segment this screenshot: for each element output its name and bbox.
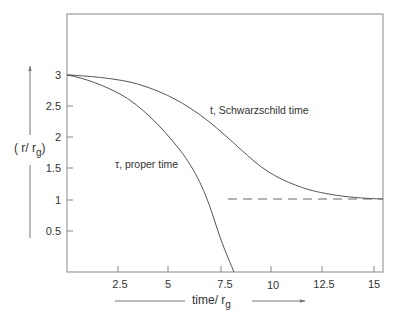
x-tick-label: 15 xyxy=(368,278,380,290)
x-tick-label: 2.5 xyxy=(112,278,127,290)
y-tick-label: 2.5 xyxy=(46,100,61,112)
x-tick-labels: 2.5 5 7.5 10 12.5 15 xyxy=(112,278,380,291)
x-tick-label: 7.5 xyxy=(217,278,232,290)
y-tick-label: 1 xyxy=(55,194,61,206)
y-tick-label: 2 xyxy=(55,131,61,143)
plot-frame xyxy=(67,14,383,272)
schwarzschild-label: t, Schwarzschild time xyxy=(210,104,309,116)
y-tick-labels: 0.5 1 1.5 2 2.5 3 xyxy=(46,69,61,237)
schwarzschild-time-curve xyxy=(67,75,383,199)
proper-time-curve xyxy=(67,75,234,272)
proper-time-label: τ, proper time xyxy=(115,158,178,170)
y-tick-label: 3 xyxy=(55,69,61,81)
x-tick-label: 5 xyxy=(165,278,171,290)
y-axis-label: ( r/ rg) xyxy=(14,141,46,158)
y-ticks xyxy=(67,75,73,231)
x-tick-label: 10 xyxy=(267,279,279,291)
chart: 0.5 1 1.5 2 2.5 3 2.5 5 7.5 10 12.5 15 t… xyxy=(0,0,398,324)
x-axis-label: time/ rg xyxy=(192,293,231,310)
x-ticks xyxy=(118,266,374,272)
y-tick-label: 1.5 xyxy=(46,162,61,174)
x-tick-label: 12.5 xyxy=(313,278,334,290)
y-tick-label: 0.5 xyxy=(46,225,61,237)
